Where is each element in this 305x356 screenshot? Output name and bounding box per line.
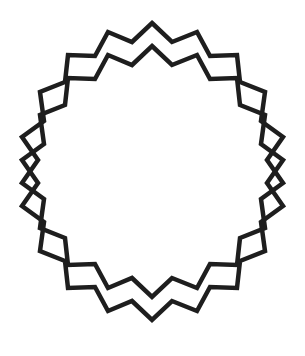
upper-star-outline bbox=[22, 23, 283, 297]
figure-canvas bbox=[0, 0, 305, 356]
star-outlines bbox=[0, 0, 305, 356]
lower-star-outline bbox=[22, 46, 283, 320]
